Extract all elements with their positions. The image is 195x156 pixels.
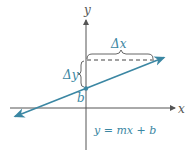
y-axis-label: y bbox=[83, 3, 91, 17]
rise-label: Δy bbox=[62, 68, 79, 82]
run-label: Δx bbox=[110, 37, 127, 51]
run-brace bbox=[87, 50, 153, 59]
intercept-label: b bbox=[77, 91, 85, 105]
equation-label: y = mx + b bbox=[93, 124, 156, 137]
rise-brace bbox=[78, 61, 84, 87]
x-axis-label: x bbox=[178, 102, 185, 116]
slope-intercept-diagram: x y Δx Δy b y = mx + b bbox=[0, 0, 195, 156]
